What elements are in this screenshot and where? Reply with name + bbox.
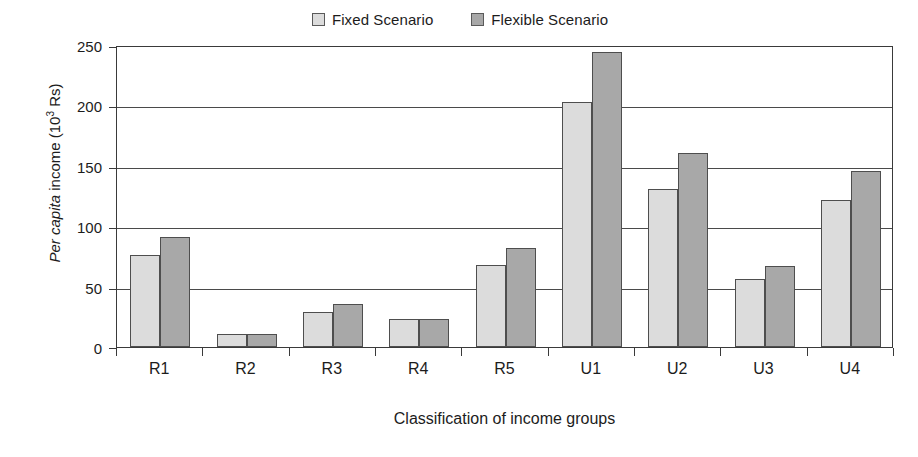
x-tick-label-u4: U4 — [840, 360, 860, 378]
y-tick-label-50: 50 — [56, 279, 102, 296]
y-tick-250 — [109, 47, 117, 48]
y-tick-label-100: 100 — [56, 219, 102, 236]
y-tick-200 — [109, 107, 117, 108]
y-tick-150 — [109, 168, 117, 169]
bar-u4-fixed — [821, 200, 851, 347]
y-tick-label-200: 200 — [56, 98, 102, 115]
y-tick-100 — [109, 228, 117, 229]
x-tick-label-u3: U3 — [753, 360, 773, 378]
x-tick-7 — [720, 348, 721, 356]
bar-u4-flexible — [851, 171, 881, 347]
legend-item-flexible-scenario: Flexible Scenario — [471, 11, 608, 28]
bar-group-u2 — [648, 47, 708, 347]
x-axis-tick-labels: R1R2R3R4R5U1U2U3U4 — [116, 360, 893, 384]
x-tick-9 — [893, 348, 894, 356]
bar-group-u1 — [562, 47, 622, 347]
bar-r5-flexible — [506, 248, 536, 347]
bar-u3-flexible — [765, 266, 795, 347]
bar-r5-fixed — [476, 265, 506, 347]
bar-r3-flexible — [333, 304, 363, 347]
bar-group-r2 — [217, 47, 277, 347]
bar-r1-fixed — [130, 255, 160, 347]
y-axis-tick-labels: 050100150200250 — [52, 46, 102, 348]
bar-r1-flexible — [160, 237, 190, 347]
x-axis-title: Classification of income groups — [116, 410, 893, 428]
bar-r3-fixed — [303, 312, 333, 347]
x-tick-0 — [116, 348, 117, 356]
x-tick-label-u1: U1 — [581, 360, 601, 378]
bar-r4-flexible — [419, 319, 449, 347]
bar-group-u3 — [735, 47, 795, 347]
y-tick-label-250: 250 — [56, 38, 102, 55]
bar-u2-flexible — [678, 153, 708, 347]
bar-group-r5 — [476, 47, 536, 347]
y-tick-label-0: 0 — [56, 340, 102, 357]
plot-area — [116, 46, 893, 348]
x-tick-5 — [548, 348, 549, 356]
x-tick-3 — [375, 348, 376, 356]
chart-figure: Fixed Scenario Flexible Scenario Per cap… — [0, 0, 918, 457]
bar-r4-fixed — [389, 319, 419, 347]
bar-r2-fixed — [217, 334, 247, 347]
bar-series-container — [117, 47, 892, 347]
legend-swatch-flexible-icon — [471, 13, 484, 26]
x-axis-ticks — [116, 348, 893, 356]
bar-u3-fixed — [735, 279, 765, 347]
chart-legend: Fixed Scenario Flexible Scenario — [230, 8, 690, 30]
y-tick-label-150: 150 — [56, 158, 102, 175]
bar-group-u4 — [821, 47, 881, 347]
bar-u1-flexible — [592, 52, 622, 347]
x-tick-8 — [807, 348, 808, 356]
legend-item-fixed-scenario: Fixed Scenario — [312, 11, 433, 28]
x-tick-4 — [461, 348, 462, 356]
x-tick-label-r4: R4 — [408, 360, 428, 378]
legend-swatch-fixed-icon — [312, 13, 325, 26]
x-tick-label-r3: R3 — [322, 360, 342, 378]
bar-u1-fixed — [562, 102, 592, 347]
x-tick-label-r5: R5 — [494, 360, 514, 378]
bar-u2-fixed — [648, 189, 678, 347]
x-tick-2 — [289, 348, 290, 356]
x-tick-1 — [202, 348, 203, 356]
x-tick-label-r2: R2 — [235, 360, 255, 378]
bar-group-r3 — [303, 47, 363, 347]
legend-label-flexible: Flexible Scenario — [491, 11, 608, 28]
bar-group-r4 — [389, 47, 449, 347]
x-tick-label-r1: R1 — [149, 360, 169, 378]
x-tick-6 — [634, 348, 635, 356]
legend-label-fixed: Fixed Scenario — [332, 11, 433, 28]
y-tick-50 — [109, 289, 117, 290]
bar-r2-flexible — [247, 334, 277, 347]
x-tick-label-u2: U2 — [667, 360, 687, 378]
bar-group-r1 — [130, 47, 190, 347]
